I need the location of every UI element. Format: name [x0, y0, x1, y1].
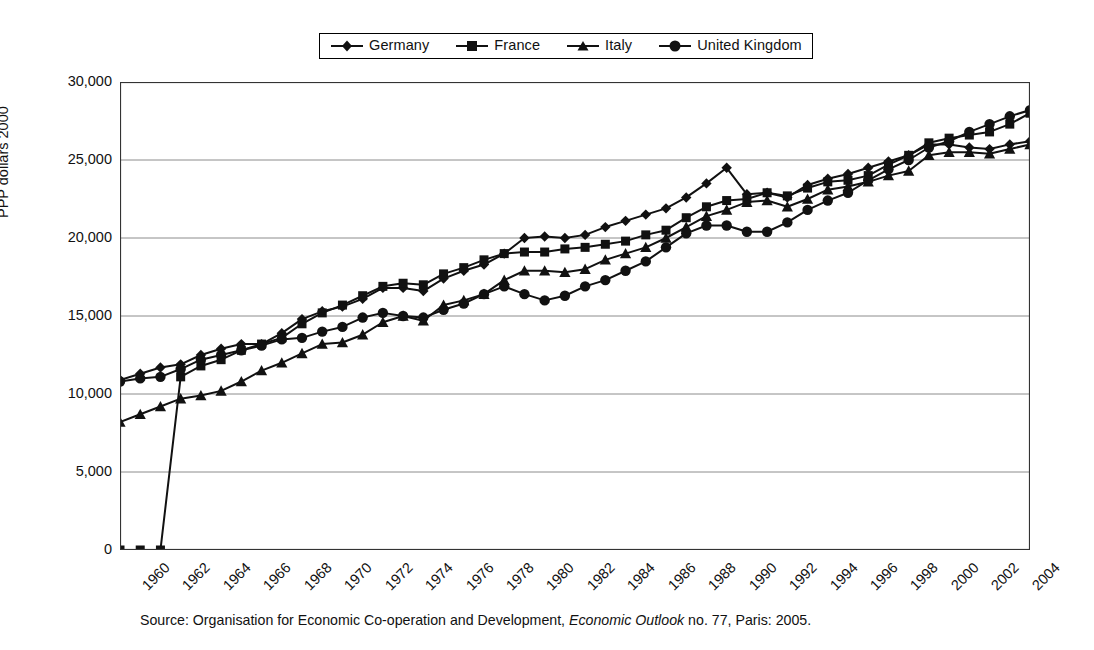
x-tick-label: 1996: [867, 560, 900, 593]
x-tick-label: 2004: [1029, 560, 1062, 593]
x-tick-label: 1972: [382, 560, 415, 593]
x-tick-label: 1968: [301, 560, 334, 593]
x-tick-label: 1964: [220, 560, 253, 593]
x-tick-label: 1974: [423, 560, 456, 593]
x-axis-tick-labels: 1960196219641966196819701972197419761978…: [0, 0, 1094, 650]
x-tick-label: 1998: [908, 560, 941, 593]
source-publication-title: Economic Outlook: [569, 612, 684, 628]
x-tick-label: 1980: [544, 560, 577, 593]
x-tick-label: 1984: [625, 560, 658, 593]
x-tick-label: 2000: [948, 560, 981, 593]
x-tick-label: 1994: [827, 560, 860, 593]
x-tick-label: 1970: [342, 560, 375, 593]
ppp-dollars-line-chart-figure: Germany France Italy United Kingdom P: [0, 0, 1094, 650]
x-tick-label: 1990: [746, 560, 779, 593]
x-tick-label: 1986: [665, 560, 698, 593]
x-tick-label: 1978: [503, 560, 536, 593]
x-tick-label: 2002: [989, 560, 1022, 593]
x-tick-label: 1966: [261, 560, 294, 593]
x-tick-label: 1988: [706, 560, 739, 593]
x-tick-label: 1976: [463, 560, 496, 593]
x-tick-label: 1960: [139, 560, 172, 593]
source-note: Source: Organisation for Economic Co-ope…: [140, 612, 811, 628]
x-tick-label: 1962: [180, 560, 213, 593]
x-tick-label: 1992: [787, 560, 820, 593]
source-suffix: no. 77, Paris: 2005.: [684, 612, 811, 628]
x-tick-label: 1982: [584, 560, 617, 593]
source-prefix: Source: Organisation for Economic Co-ope…: [140, 612, 569, 628]
